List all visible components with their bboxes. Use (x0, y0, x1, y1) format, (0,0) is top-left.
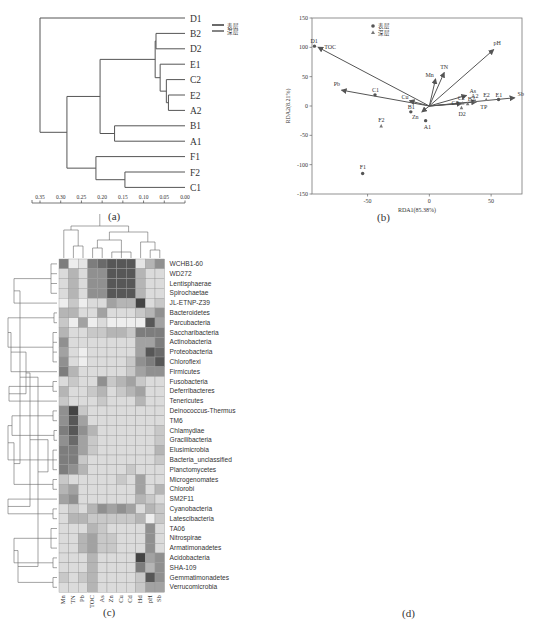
heatmap-cell (155, 553, 165, 563)
heatmap-cell (145, 328, 155, 338)
heatmap-cell (78, 465, 88, 475)
sample-point-label: B1 (408, 104, 415, 110)
heatmap-cell (107, 455, 117, 465)
heatmap-cell (117, 426, 127, 436)
x-tick-label: 50 (488, 198, 494, 204)
heatmap-cell (88, 475, 98, 485)
heatmap-cell (88, 533, 98, 543)
heatmap-cell (88, 288, 98, 298)
heatmap-cell (69, 347, 79, 357)
heatmap-cell (145, 259, 155, 269)
axis-tick-label: 0.25 (77, 194, 87, 200)
heatmap-cell (136, 514, 146, 524)
heatmap-cell (97, 367, 107, 377)
leaf-label: B1 (190, 121, 201, 131)
heatmap-cell (136, 426, 146, 436)
heatmap-cell (88, 504, 98, 514)
sample-point-surface (409, 110, 412, 113)
heatmap-c: WCHB1-60WD272LentisphaeraeSpirochaetaeJL… (0, 225, 272, 622)
legend-circle-marker (371, 24, 375, 28)
heatmap-cell (97, 524, 107, 534)
heatmap-cell (97, 259, 107, 269)
heatmap-cell (88, 269, 98, 279)
dendrogram-branch (166, 80, 185, 103)
dendrogram-branch (160, 64, 185, 91)
row-label: Microgenomates (170, 476, 219, 484)
sample-point-label: F1 (360, 164, 366, 170)
heatmap-cell (69, 435, 79, 445)
heatmap-cell (126, 357, 136, 367)
heatmap-cell (145, 504, 155, 514)
sample-point-label: A1 (424, 124, 431, 130)
heatmap-cell (117, 318, 127, 328)
row-label: JL-ETNP-Z39 (170, 299, 211, 306)
heatmap-cell (145, 426, 155, 436)
heatmap-cell (126, 435, 136, 445)
heatmap-cell (136, 347, 146, 357)
panel-c-heatmap: WCHB1-60WD272LentisphaeraeSpirochaetaeJL… (0, 225, 272, 622)
heatmap-cell (117, 553, 127, 563)
heatmap-cell (155, 328, 165, 338)
heatmap-cell (136, 524, 146, 534)
row-label: Parcubacteria (170, 319, 211, 326)
heatmap-cell (59, 298, 69, 308)
heatmap-cell (145, 484, 155, 494)
heatmap-cell (117, 533, 127, 543)
y-tick-label: -50 (300, 132, 308, 138)
heatmap-cell (78, 406, 88, 416)
heatmap-cell (155, 435, 165, 445)
heatmap-cell (59, 318, 69, 328)
heatmap-cell (59, 367, 69, 377)
heatmap-cell (155, 406, 165, 416)
heatmap-cell (155, 455, 165, 465)
heatmap-cell (107, 524, 117, 534)
heatmap-cell (88, 416, 98, 426)
sample-point-surface (361, 172, 364, 175)
heatmap-cell (78, 514, 88, 524)
heatmap-cell (97, 416, 107, 426)
heatmap-cell (97, 288, 107, 298)
column-label: As (98, 595, 105, 603)
heatmap-cell (78, 328, 88, 338)
heatmap-cell (126, 553, 136, 563)
row-label: Gracilibacteria (170, 436, 212, 443)
leaf-label: C1 (190, 183, 201, 193)
panel-d-heatmap: (d) (272, 225, 544, 622)
heatmap-cell (117, 563, 127, 573)
sample-point-surface (424, 119, 427, 122)
heatmap-cell (88, 524, 98, 534)
heatmap-cell (126, 533, 136, 543)
heatmap-cell (59, 406, 69, 416)
heatmap-cell (59, 494, 69, 504)
heatmap-cell (136, 504, 146, 514)
heatmap-cell (117, 435, 127, 445)
env-vector-label: pH (494, 40, 502, 46)
heatmap-cell (145, 563, 155, 573)
heatmap-cell (136, 406, 146, 416)
heatmap-cell (155, 386, 165, 396)
heatmap-cell (107, 445, 117, 455)
heatmap-cell (126, 514, 136, 524)
heatmap-cell (136, 318, 146, 328)
heatmap-cell (88, 386, 98, 396)
legend-label: 深层 (378, 29, 390, 37)
heatmap-cell (155, 337, 165, 347)
row-label: Nitrospirae (170, 534, 202, 542)
heatmap-cell (88, 582, 98, 592)
heatmap-cell (97, 533, 107, 543)
heatmap-cell (97, 426, 107, 436)
heatmap-cell (97, 269, 107, 279)
heatmap-cell (69, 308, 79, 318)
heatmap-cell (117, 269, 127, 279)
heatmap-cell (78, 396, 88, 406)
heatmap-cell (126, 347, 136, 357)
heatmap-cell (59, 377, 69, 387)
heatmap-cell (136, 357, 146, 367)
heatmap-cell (107, 533, 117, 543)
heatmap-cell (145, 347, 155, 357)
row-label: Deferribacteres (170, 387, 216, 394)
heatmap-cell (69, 406, 79, 416)
heatmap-cell (126, 279, 136, 289)
row-label: Cyanobacteria (170, 505, 213, 513)
heatmap-cell (136, 573, 146, 583)
